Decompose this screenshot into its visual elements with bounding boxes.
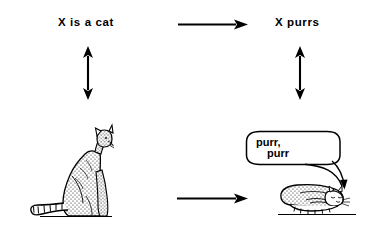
lying-purring-cat-illustration: [278, 185, 356, 215]
logic-diagram-figure: X is a cat X purrs: [0, 0, 372, 231]
implication-arrow-icon: [178, 20, 248, 30]
left-correspondence-arrow-icon: [83, 46, 93, 100]
right-correspondence-arrow-icon: [295, 46, 305, 100]
speech-bubble-line-2: purr: [267, 148, 289, 159]
diagram-graphics-layer: [0, 0, 372, 231]
causal-arrow-icon: [177, 194, 248, 204]
sitting-cat-illustration: [31, 125, 114, 217]
